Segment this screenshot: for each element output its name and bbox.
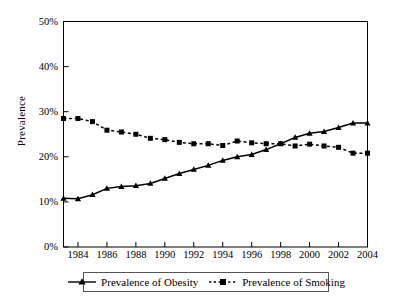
- legend-item-obesity[interactable]: Prevalence of Obesity: [67, 276, 198, 288]
- data-point-marker: [206, 141, 211, 146]
- data-point-marker: [90, 119, 95, 124]
- x-axis-ticks: [78, 242, 368, 247]
- data-point-marker: [235, 139, 240, 144]
- data-point-marker: [148, 136, 153, 141]
- data-point-marker: [162, 137, 167, 142]
- series-line-prevalence-of-obesity: [64, 123, 368, 199]
- data-point-marker: [119, 129, 124, 134]
- data-point-marker: [191, 141, 196, 146]
- square-marker-icon: [208, 276, 238, 288]
- chart-figure: Prevalence 0%10%20%30%40%50% 19841986198…: [0, 0, 410, 301]
- legend-label-smoking: Prevalence of Smoking: [242, 277, 345, 288]
- data-point-marker: [104, 128, 109, 133]
- data-point-marker: [220, 143, 225, 148]
- data-point-marker: [249, 140, 254, 145]
- data-point-marker: [75, 116, 80, 121]
- y-axis-ticks: [64, 22, 69, 248]
- data-point-marker: [61, 116, 66, 121]
- legend-label-obesity: Prevalence of Obesity: [101, 277, 198, 288]
- data-point-marker: [365, 151, 370, 156]
- chart-legend: Prevalence of Obesity Prevalence of Smok…: [83, 272, 329, 292]
- data-point-marker: [336, 145, 341, 150]
- data-point-marker: [133, 132, 138, 137]
- data-point-marker: [322, 143, 327, 148]
- data-point-marker: [264, 141, 269, 146]
- data-point-marker: [177, 140, 182, 145]
- data-point-marker: [278, 141, 283, 146]
- data-point-marker: [293, 143, 298, 148]
- axis-frame: [64, 22, 368, 248]
- plot-area: [0, 0, 410, 301]
- triangle-marker-icon: [67, 276, 97, 288]
- legend-item-smoking[interactable]: Prevalence of Smoking: [208, 276, 345, 288]
- data-point-marker: [307, 142, 312, 147]
- data-series-group: [60, 116, 370, 201]
- data-point-marker: [351, 151, 356, 156]
